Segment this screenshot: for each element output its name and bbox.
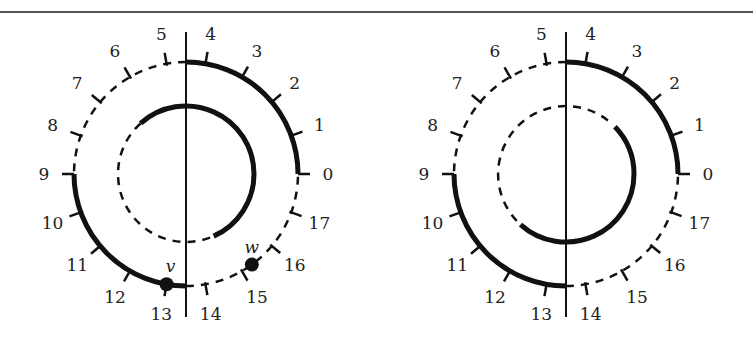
tick-mark — [91, 246, 100, 254]
point-v — [160, 277, 174, 291]
tick-label: 16 — [284, 255, 306, 275]
tick-label: 0 — [703, 164, 714, 184]
tick-label: 7 — [452, 73, 463, 93]
point-label-w: w — [245, 237, 260, 257]
tick-label: 11 — [66, 255, 88, 275]
tick-label: 5 — [156, 24, 167, 44]
tick-label: 4 — [205, 24, 216, 44]
tick-label: 14 — [580, 304, 602, 324]
tick-label: 17 — [689, 213, 711, 233]
tick-mark — [242, 67, 248, 77]
tick-mark — [272, 94, 281, 102]
tick-mark — [472, 95, 482, 103]
tick-label: 2 — [669, 73, 680, 93]
tick-label: 5 — [536, 24, 547, 44]
tick-mark — [270, 245, 280, 253]
outer-solid-arc — [566, 62, 678, 174]
tick-label: 10 — [422, 213, 444, 233]
tick-label: 1 — [314, 115, 325, 135]
tick-label: 3 — [252, 41, 263, 61]
tick-label: 15 — [246, 287, 268, 307]
tick-label: 11 — [446, 255, 468, 275]
diagram-left: 01234567891011121314151617vw — [39, 24, 334, 324]
tick-label: 14 — [200, 304, 222, 324]
tick-label: 7 — [72, 73, 83, 93]
point-label-v: v — [166, 256, 176, 276]
inner-solid-arc — [615, 127, 634, 174]
tick-mark — [471, 246, 480, 254]
outer-solid-arc — [186, 62, 298, 174]
inner-dashed-arc — [118, 123, 214, 242]
tick-label: 13 — [151, 304, 173, 324]
circle-diagrams: 01234567891011121314151617vw012345678910… — [0, 0, 753, 344]
tick-label: 9 — [419, 164, 430, 184]
tick-label: 8 — [427, 115, 438, 135]
tick-label: 2 — [289, 73, 300, 93]
tick-label: 6 — [490, 41, 501, 61]
tick-mark — [622, 67, 628, 77]
tick-label: 17 — [309, 213, 331, 233]
tick-label: 9 — [39, 164, 50, 184]
tick-label: 6 — [110, 41, 121, 61]
tick-label: 16 — [664, 255, 686, 275]
tick-mark — [124, 271, 130, 281]
tick-label: 8 — [47, 115, 58, 135]
tick-label: 15 — [626, 287, 648, 307]
point-w — [245, 258, 259, 272]
inner-dashed-arc — [498, 106, 608, 224]
tick-mark — [92, 95, 102, 103]
tick-label: 12 — [104, 287, 126, 307]
tick-label: 13 — [531, 304, 553, 324]
inner-solid-arc — [141, 106, 255, 174]
tick-mark — [652, 94, 661, 102]
tick-label: 10 — [42, 213, 64, 233]
outer-solid-arc — [454, 174, 566, 286]
tick-label: 4 — [585, 24, 596, 44]
tick-label: 1 — [694, 115, 705, 135]
tick-label: 3 — [632, 41, 643, 61]
tick-mark — [650, 245, 660, 253]
inner-solid-arc — [521, 174, 635, 242]
tick-label: 0 — [323, 164, 334, 184]
tick-mark — [504, 271, 510, 281]
diagram-right: 01234567891011121314151617 — [419, 24, 714, 324]
tick-label: 12 — [484, 287, 506, 307]
inner-solid-arc — [214, 174, 254, 236]
